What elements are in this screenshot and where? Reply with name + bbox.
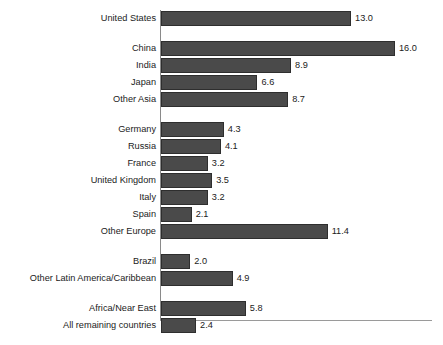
category-label: Other Asia	[113, 92, 156, 107]
bar-value-label: 4.9	[237, 271, 250, 286]
category-label: United States	[101, 11, 156, 26]
bar	[161, 58, 291, 73]
bar-value-label: 3.2	[212, 190, 225, 205]
bar-row: Japan6.6	[0, 75, 443, 90]
bar-row: Russia4.1	[0, 139, 443, 154]
bar-row: France3.2	[0, 156, 443, 171]
bar-row: Italy3.2	[0, 190, 443, 205]
bar	[161, 207, 192, 222]
bar	[161, 75, 257, 90]
bar-value-label: 2.4	[200, 318, 213, 333]
category-label: Spain	[133, 207, 157, 222]
bar	[161, 139, 221, 154]
bar-value-label: 6.6	[261, 75, 274, 90]
bar-row: Other Europe11.4	[0, 224, 443, 239]
bar	[161, 41, 395, 56]
bar-row: Germany4.3	[0, 122, 443, 137]
category-label: China	[132, 41, 156, 56]
bar-row: Spain2.1	[0, 207, 443, 222]
bar-row: United Kingdom3.5	[0, 173, 443, 188]
category-label: Other Latin America/Caribbean	[30, 271, 156, 286]
bar	[161, 156, 208, 171]
bar-row: Other Latin America/Caribbean4.9	[0, 271, 443, 286]
bar-value-label: 3.5	[216, 173, 229, 188]
bar-value-label: 11.4	[332, 224, 349, 239]
bar-row: United States13.0	[0, 11, 443, 26]
bar	[161, 11, 351, 26]
category-label: Other Europe	[101, 224, 156, 239]
bar-value-label: 13.0	[355, 11, 373, 26]
bar-chart: United States13.0China16.0India8.9Japan6…	[0, 0, 443, 345]
bar-row: All remaining countries2.4	[0, 318, 443, 333]
bar	[161, 301, 246, 316]
bar	[161, 271, 233, 286]
bar-row: Brazil2.0	[0, 254, 443, 269]
category-label: Africa/Near East	[89, 301, 156, 316]
bar-row: Africa/Near East5.8	[0, 301, 443, 316]
bar	[161, 173, 212, 188]
bar-value-label: 8.7	[292, 92, 305, 107]
bar	[161, 318, 196, 333]
category-label: Russia	[128, 139, 156, 154]
bar-value-label: 2.1	[196, 207, 209, 222]
bar-value-label: 2.0	[194, 254, 207, 269]
category-label: Germany	[118, 122, 156, 137]
bar-value-label: 5.8	[250, 301, 263, 316]
category-label: Italy	[139, 190, 156, 205]
bar-value-label: 3.2	[212, 156, 225, 171]
bar	[161, 254, 190, 269]
bar	[161, 190, 208, 205]
category-label: All remaining countries	[63, 318, 156, 333]
bar	[161, 92, 288, 107]
bar	[161, 122, 224, 137]
bar-value-label: 4.3	[228, 122, 241, 137]
category-label: France	[127, 156, 156, 171]
bar	[161, 224, 328, 239]
bar-value-label: 8.9	[295, 58, 308, 73]
category-label: United Kingdom	[91, 173, 156, 188]
bar-row: China16.0	[0, 41, 443, 56]
bar-value-label: 16.0	[399, 41, 417, 56]
bar-row: Other Asia8.7	[0, 92, 443, 107]
bar-value-label: 4.1	[225, 139, 238, 154]
category-label: Japan	[131, 75, 156, 90]
category-label: Brazil	[133, 254, 156, 269]
bar-row: India8.9	[0, 58, 443, 73]
category-label: India	[136, 58, 156, 73]
